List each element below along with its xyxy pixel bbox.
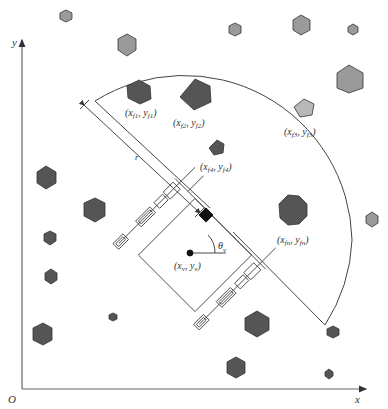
- feature-f3-obstacle: [294, 99, 314, 117]
- obstacle: [84, 198, 105, 222]
- feature-f1-label: (xf1, yf1): [125, 107, 157, 120]
- theta-arc: [208, 235, 215, 253]
- robot-position-label: (xv, yv): [174, 260, 201, 273]
- obstacle: [227, 357, 245, 378]
- robot-center-point: [187, 250, 193, 256]
- feature-f4-obstacle: [209, 140, 224, 155]
- feature-f2-obstacle: [180, 79, 211, 110]
- obstacle: [33, 323, 52, 345]
- slam-diagram: O x y r: [0, 0, 388, 409]
- obstacle: [45, 269, 57, 284]
- x-axis-label: x: [354, 393, 360, 405]
- feature-f3-label: (xf3, yf3): [284, 126, 316, 139]
- robot-tracks: [112, 163, 282, 333]
- feature-fn-obstacle: [279, 195, 307, 225]
- range-label: r: [135, 152, 139, 162]
- obstacle: [44, 231, 56, 245]
- obstacle: [60, 10, 72, 22]
- origin-label: O: [8, 393, 16, 405]
- obstacle: [337, 65, 363, 93]
- feature-f4-label: (xf4, yf4): [200, 161, 232, 174]
- y-axis-label: y: [11, 36, 17, 48]
- obstacle: [325, 369, 333, 379]
- feature-labels: (xf1, yf1) (xf2, yf2) (xf3, yf3) (xf4, y…: [125, 107, 316, 247]
- obstacle: [245, 311, 269, 337]
- obstacle: [366, 212, 378, 227]
- obstacle: [109, 313, 117, 321]
- theta-label: θv: [218, 240, 227, 254]
- obstacle: [229, 23, 241, 36]
- sensor-block: [199, 208, 213, 222]
- robot: [112, 163, 282, 333]
- obstacle: [327, 326, 339, 338]
- pose-labels: θv (xv, yv): [174, 240, 227, 273]
- obstacle: [348, 24, 358, 35]
- diagram-canvas: O x y r: [0, 0, 388, 409]
- obstacle: [118, 34, 136, 56]
- feature-fn-label: (xfn, yfn): [277, 234, 309, 247]
- obstacle: [37, 166, 56, 189]
- feature-f2-label: (xf2, yf2): [173, 117, 205, 130]
- obstacle: [293, 15, 310, 35]
